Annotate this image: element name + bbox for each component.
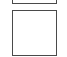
cropped-panel-top: [12, 0, 57, 4]
empty-panel[interactable]: [12, 10, 57, 56]
